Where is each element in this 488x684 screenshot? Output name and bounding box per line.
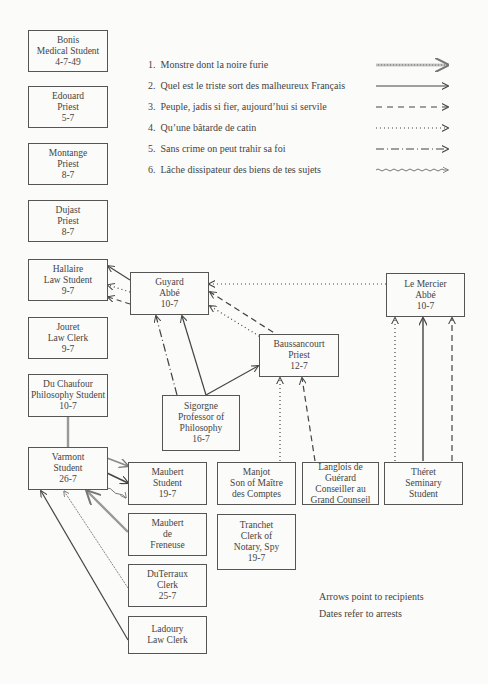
legend-item-5: 5. Sans crime on peut trahir sa foi xyxy=(148,143,285,157)
node-ladoury: LadouryLaw Clerk xyxy=(128,616,207,654)
node-theret: ThéretSeminaryStudent xyxy=(384,462,463,505)
node-jouret: JouretLaw Clerk9-7 xyxy=(28,317,108,359)
node-montange: MontangePriest8-7 xyxy=(28,143,108,185)
node-guyard: GuyardAbbé10-7 xyxy=(130,272,209,315)
legend-lines xyxy=(376,65,448,171)
node-bonis: BonisMedical Student4-7-49 xyxy=(28,30,108,72)
node-edouard: EdouardPriest5-7 xyxy=(28,86,108,128)
node-sigorgne: SigorgneProfessor ofPhilosophy16-7 xyxy=(162,395,240,451)
note-arrows: Arrows point to recipients xyxy=(319,588,424,605)
node-lemercier: Le MercierAbbé10-7 xyxy=(386,273,465,317)
node-tranchet: TranchetClerk ofNotary, Spy19-7 xyxy=(217,514,296,570)
node-baussancourt: BaussancourtPriest12-7 xyxy=(259,334,339,377)
note-dates: Dates refer to arrests xyxy=(319,605,424,622)
node-langlois: Langlois de GuérardConseiller auGrand Co… xyxy=(302,462,379,505)
legend-item-3: 3. Peuple, jadis si fier, aujourd’hui si… xyxy=(148,101,327,115)
node-duchaufour: Du ChaufourPhilosophy Student10-7 xyxy=(28,374,108,417)
node-maubert: MaubertStudent19-7 xyxy=(128,462,207,505)
node-maubert-de-freneuse: MaubertdeFreneuse xyxy=(128,513,207,556)
node-duterraux: DuTerrauxClerk25-7 xyxy=(128,564,207,607)
diagram-notes: Arrows point to recipients Dates refer t… xyxy=(319,588,424,622)
node-dujast: DujastPriest8-7 xyxy=(28,200,108,242)
legend-item-4: 4. Qu’une bâtarde de catin xyxy=(148,122,256,136)
node-varmont: VarmontStudent26-7 xyxy=(28,447,108,490)
legend-item-6: 6. Lâche dissipateur des biens de tes su… xyxy=(148,164,321,178)
legend-item-1: 1. Monstre dont la noire furie xyxy=(148,59,268,73)
node-hallaire: HallaireLaw Student9-7 xyxy=(28,259,108,301)
node-manjot: ManjotSon of Maîtredes Comptes xyxy=(217,462,296,505)
legend-item-2: 2. Quel est le triste sort des malheureu… xyxy=(148,80,345,94)
